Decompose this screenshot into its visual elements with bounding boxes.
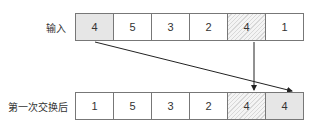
after-first-swap-label: 第一次交换后 (2, 99, 68, 114)
result-cell-2: 5 (113, 92, 152, 120)
result-cell-1: 1 (75, 92, 114, 120)
arrow-first-to-last (95, 42, 292, 91)
result-cell-4: 2 (189, 92, 228, 120)
result-cell-3: 3 (151, 92, 190, 120)
result-cell-5: 4 (227, 92, 266, 120)
after-first-swap-row: 1 5 3 2 4 4 (75, 92, 304, 120)
result-cell-6: 4 (265, 92, 304, 120)
